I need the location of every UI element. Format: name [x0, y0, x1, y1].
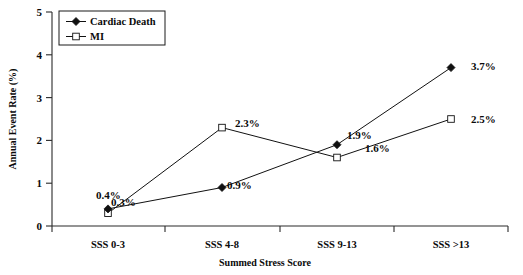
x-category-label-2: SSS 9-13	[317, 239, 356, 250]
x-category-label-3: SSS >13	[433, 239, 470, 250]
x-category-label-0: SSS 0-3	[91, 239, 125, 250]
y-tick-label-3: 3	[37, 92, 43, 104]
x-axis-title: Summed Stress Score	[219, 257, 311, 268]
chart-container: 5 4 3 2 1 0 Annual Event Rate (%) SSS 0-…	[0, 0, 523, 275]
data-label-cardiac-death-3: 3.7%	[471, 60, 496, 72]
line-chart: 5 4 3 2 1 0 Annual Event Rate (%) SSS 0-…	[0, 0, 523, 275]
data-label-mi-1: 2.3%	[235, 117, 260, 129]
y-tick-label-0: 0	[37, 220, 43, 232]
legend-label-mi: MI	[90, 31, 104, 42]
legend-label-cardiac-death: Cardiac Death	[90, 16, 156, 27]
y-axis-title: Annual Event Rate (%)	[7, 69, 19, 170]
series-line-cardiac-death	[108, 68, 451, 209]
y-tick-label-1: 1	[37, 177, 43, 189]
data-label-mi-2: 1.6%	[365, 142, 390, 154]
data-label-mi-0: 0.3%	[111, 196, 136, 208]
data-point-mi-1	[219, 124, 226, 131]
data-label-mi-3: 2.5%	[471, 113, 496, 125]
legend: Cardiac Death MI	[59, 11, 165, 45]
data-point-cardiac-death-2	[333, 141, 341, 149]
data-point-mi-2	[334, 154, 341, 161]
x-category-label-1: SSS 4-8	[205, 239, 239, 250]
data-point-cardiac-death-3	[447, 64, 455, 72]
data-label-cardiac-death-1: 0.9%	[227, 179, 252, 191]
y-tick-label-4: 4	[37, 49, 43, 61]
y-tick-label-5: 5	[37, 6, 43, 18]
data-point-cardiac-death-1	[218, 184, 226, 192]
y-tick-label-2: 2	[37, 134, 43, 146]
data-label-cardiac-death-2: 1.9%	[347, 129, 372, 141]
data-point-mi-3	[448, 116, 455, 123]
legend-marker-open-square-icon	[73, 33, 80, 40]
